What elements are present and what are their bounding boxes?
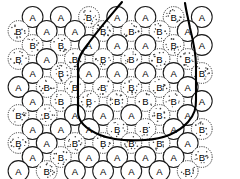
particle-a-outline xyxy=(149,161,170,179)
particle-cluster-figure: AABAABABAABBBABBAAABABABBBBBABAAAABABBBB… xyxy=(0,0,240,179)
diagram-canvas: AABAABABAABBBABBAAABABABBBBBABAAAABABBBB… xyxy=(0,0,240,179)
particle-a-outline xyxy=(65,161,86,179)
particle-a-outline xyxy=(121,161,142,179)
particle-a-outline xyxy=(8,161,29,179)
particle-a: A xyxy=(93,161,114,179)
particle-a: A xyxy=(8,161,29,179)
particle-a-outline xyxy=(93,161,114,179)
particle-a: A xyxy=(65,161,86,179)
particle-a: A xyxy=(121,161,142,179)
particle-a: A xyxy=(149,161,170,179)
particle-layer: AABAABABAABBBABBAAABABABBBBBABAAAABABBBB… xyxy=(8,7,212,179)
